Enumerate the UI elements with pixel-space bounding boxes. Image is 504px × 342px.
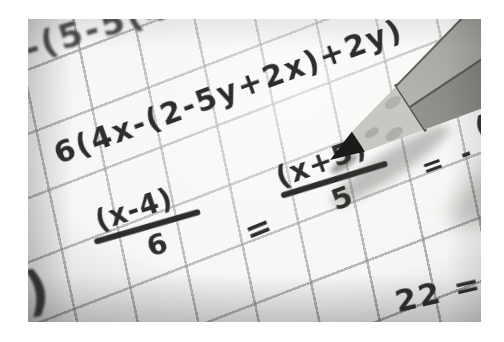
pencil [28, 19, 481, 322]
photo-frame: -(5-5(4 6(4x-(2-5y+2x)+2y) (x-4) 6 = (x+… [28, 19, 481, 322]
